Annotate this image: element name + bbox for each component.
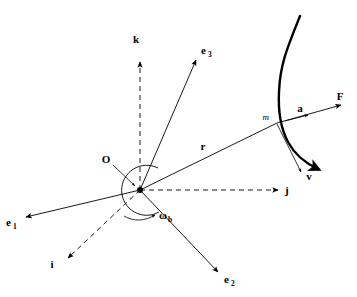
- inertial-axis-k-label: k: [133, 33, 140, 45]
- position-vector-r: r: [140, 123, 277, 190]
- body-axis-e3-line: [140, 60, 196, 190]
- inertial-axis-i: i: [50, 190, 140, 270]
- body-axis-e2-label: e: [224, 273, 229, 285]
- angular-velocity-omega-b: ω b: [124, 209, 172, 224]
- body-axis-e2-subscript: 2: [231, 279, 235, 288]
- body-axis-e3: e 3: [140, 44, 212, 190]
- position-vector-r-line: [140, 123, 277, 190]
- origin-pointer-arrow: [113, 165, 135, 186]
- angular-velocity-subscript: b: [168, 215, 172, 224]
- body-axis-e2-line: [140, 190, 218, 272]
- origin-dot: [137, 187, 143, 193]
- velocity-vector-v-line: [277, 124, 301, 172]
- acceleration-vector-a-label: a: [297, 102, 303, 114]
- body-axis-e1-line: [26, 190, 140, 217]
- inertial-axis-j-label: j: [284, 184, 289, 196]
- inertial-axis-j: j: [140, 184, 289, 196]
- angular-velocity-arc: [124, 215, 155, 220]
- particle-m-label: m: [263, 112, 270, 122]
- acceleration-vector-a-line: [285, 115, 308, 121]
- mechanics-diagram-figure: k j i e 3 e 1 e 2: [0, 0, 357, 297]
- trajectory-curve: [279, 16, 318, 169]
- inertial-axis-i-line: [68, 190, 140, 258]
- body-axis-e2: e 2: [140, 190, 235, 288]
- origin-label: O: [102, 153, 111, 165]
- body-axis-e1: e 1: [6, 190, 140, 231]
- inertial-axis-i-label: i: [50, 258, 53, 270]
- origin-marker: O: [102, 153, 159, 215]
- particle-m: m: [263, 112, 270, 122]
- position-vector-r-label: r: [201, 140, 206, 152]
- body-axis-e1-label: e: [6, 216, 11, 228]
- velocity-vector-v-label: v: [306, 170, 312, 182]
- angular-velocity-label: ω: [159, 209, 167, 221]
- force-vector-F-label: F: [337, 90, 344, 102]
- trajectory-curve-path: [279, 16, 318, 169]
- body-axis-e3-subscript: 3: [208, 50, 212, 59]
- body-axis-e1-subscript: 1: [13, 222, 17, 231]
- diagram-canvas: k j i e 3 e 1 e 2: [0, 0, 357, 297]
- acceleration-vector-a: a: [285, 102, 308, 121]
- force-vector-F: F: [277, 90, 344, 123]
- body-axis-e3-label: e: [201, 44, 206, 56]
